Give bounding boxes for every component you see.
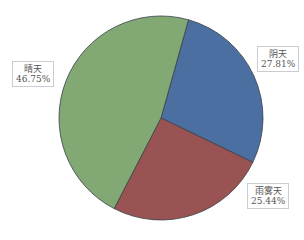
label-sunny-name: 晴天 xyxy=(16,64,50,74)
label-cloudy-value: 27.81% xyxy=(261,59,295,69)
label-rain-fog: 雨雾天 25.44% xyxy=(247,183,289,209)
label-sunny: 晴天 46.75% xyxy=(12,61,54,87)
label-cloudy-name: 阴天 xyxy=(261,49,295,59)
label-rain-fog-value: 25.44% xyxy=(251,196,285,206)
label-rain-fog-name: 雨雾天 xyxy=(251,186,285,196)
label-cloudy: 阴天 27.81% xyxy=(257,46,299,72)
label-sunny-value: 46.75% xyxy=(16,74,50,84)
